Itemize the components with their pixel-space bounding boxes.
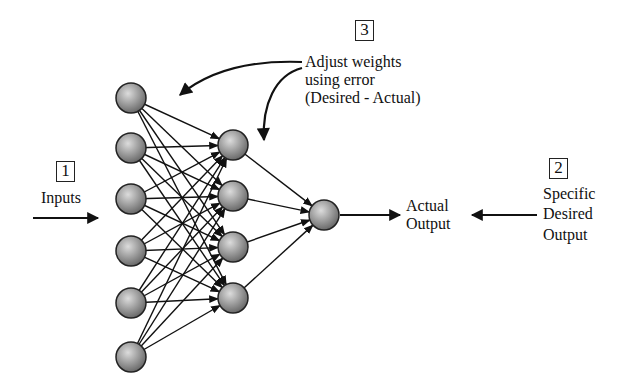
desired-line-3: Output	[543, 226, 587, 244]
hidden-node	[218, 232, 248, 262]
input-node	[116, 236, 146, 266]
hidden-output-connections	[233, 145, 313, 298]
step-1-badge: 1	[56, 161, 75, 182]
hidden-node	[218, 130, 248, 160]
adjust-line-1: Adjust weights	[305, 53, 401, 71]
inputs-label: Inputs	[41, 189, 81, 207]
input-node	[116, 83, 146, 113]
connection-arrow-icon	[131, 98, 225, 235]
step-2-badge: 2	[549, 158, 568, 179]
input-node	[116, 184, 146, 214]
adjust-line-2: using error	[305, 71, 375, 89]
input-node	[116, 288, 146, 318]
hidden-node	[218, 283, 248, 313]
desired-line-2: Desired	[543, 205, 593, 223]
input-node	[116, 133, 146, 163]
hidden-node	[218, 181, 248, 211]
feedback-arrow-hidden-icon	[264, 68, 302, 140]
step-3-badge: 3	[355, 20, 374, 41]
adjust-line-3: (Desired - Actual)	[305, 89, 421, 107]
output-node	[309, 200, 339, 230]
input-hidden-connections	[131, 98, 226, 357]
desired-line-1: Specific	[543, 185, 595, 203]
connection-arrow-icon	[233, 225, 313, 298]
actual-output-line-2: Output	[406, 215, 450, 233]
actual-output-line-1: Actual	[406, 197, 449, 215]
input-node	[116, 342, 146, 372]
